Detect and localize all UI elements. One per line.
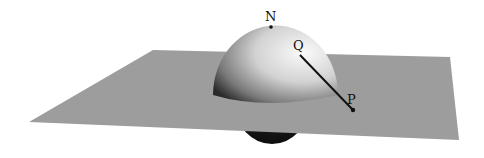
- diagram-canvas: N Q P: [0, 0, 484, 158]
- plane-point: [351, 108, 355, 112]
- stereographic-projection-diagram: N Q P: [0, 0, 484, 158]
- north-pole-point: [269, 25, 273, 29]
- plane-point-label: P: [347, 92, 356, 107]
- sphere-upper-hemisphere: [213, 25, 338, 103]
- north-pole-label: N: [265, 9, 276, 24]
- sphere-point-label: Q: [293, 38, 304, 53]
